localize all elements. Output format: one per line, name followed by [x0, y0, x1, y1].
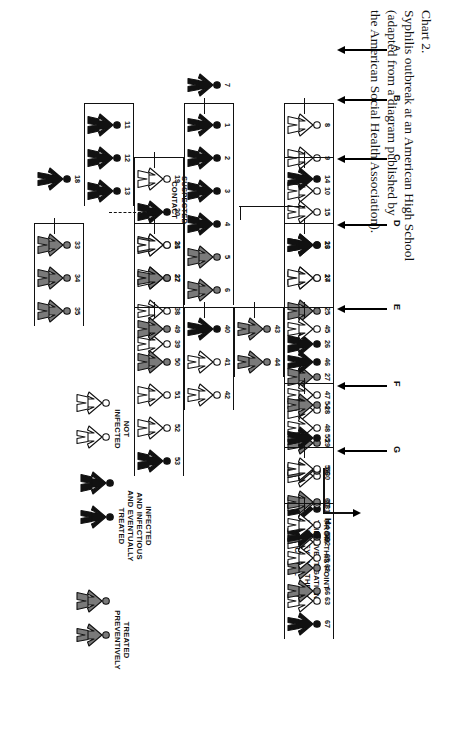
arrow-shaft — [343, 385, 387, 387]
person-icon — [187, 72, 221, 98]
legend-preventive: TREATED PREVENTIVELY — [74, 588, 131, 692]
connector-line — [304, 378, 305, 394]
generation-label-a: A — [392, 45, 402, 52]
cluster-bracket — [34, 223, 84, 326]
legend-infected: INFECTED AND INFECTIOUS AND EVENTUALLY T… — [78, 470, 153, 582]
case-number: 18 — [73, 166, 81, 192]
cluster-bracket — [284, 503, 334, 639]
connector-line — [204, 302, 205, 318]
legend-notinfected-line-1: NOT — [122, 390, 131, 468]
connector-line — [304, 152, 305, 168]
connector-line — [304, 302, 305, 318]
connector-line — [154, 152, 155, 168]
arrow-head — [337, 155, 345, 163]
legend-notinfected-figures — [74, 390, 110, 468]
suspected-contact-link — [109, 212, 165, 213]
legend-preventive-line-1: TREATED — [122, 588, 131, 692]
cluster-bracket — [134, 307, 184, 476]
arrow-shaft — [343, 308, 387, 310]
arrow-head — [337, 96, 345, 104]
connector-line — [154, 218, 155, 234]
legend-figure — [76, 588, 110, 614]
cluster-bracket — [184, 103, 234, 305]
connector-line — [204, 98, 205, 114]
arrow-head — [337, 46, 345, 54]
arrow-shaft — [343, 99, 387, 101]
legend-infected-line-1: INFECTED — [144, 470, 153, 582]
connector-line — [254, 302, 255, 318]
connector-line — [239, 206, 305, 207]
legend-figure — [76, 390, 110, 416]
case-number: 7 — [223, 72, 231, 98]
arrow-shaft — [343, 450, 387, 452]
legend-preventive-line-2: PREVENTIVELY — [113, 588, 122, 692]
arrow-head — [337, 447, 345, 455]
arrow-head — [337, 305, 345, 313]
person-icon — [80, 470, 114, 496]
arrow-shaft — [343, 49, 387, 51]
connector-line — [304, 98, 305, 114]
generation-label-c: C — [392, 154, 402, 161]
arrow-head — [337, 221, 345, 229]
person-icon — [76, 622, 110, 648]
person-icon — [76, 588, 110, 614]
legend-notinfected-title: NOT INFECTED — [113, 390, 131, 468]
arrow-head — [337, 382, 345, 390]
legend-figure — [80, 504, 114, 530]
legend-infected-line-2: AND INFECTIOUS — [135, 470, 144, 582]
connector-line — [54, 218, 55, 234]
cluster-bracket — [184, 307, 234, 410]
person-icon — [80, 504, 114, 530]
connector-line — [304, 218, 305, 234]
connector-line — [304, 498, 305, 514]
generation-label-g: G — [392, 446, 402, 453]
arrow-shaft — [343, 158, 387, 160]
generation-label-f: F — [392, 381, 402, 387]
legend-infected-line-4: TREATED — [117, 470, 126, 582]
caption-line-3: the American Social Health Association). — [367, 10, 384, 310]
chart-canvas: Chart 2. Syphilis outbreak at an America… — [0, 0, 449, 746]
legend-infected-line-3: AND EVENTUALLY — [126, 470, 135, 582]
connector-line — [240, 206, 241, 220]
legend-notinfected: NOT INFECTED — [74, 390, 131, 468]
legend-figure — [80, 470, 114, 496]
legend-figure — [76, 424, 110, 450]
legend-infected-figures — [78, 470, 114, 582]
legend-preventive-title: TREATED PREVENTIVELY — [113, 588, 131, 692]
generation-label-d: D — [392, 220, 402, 227]
caption-line-0: Chart 2. — [418, 10, 435, 310]
arrow-shaft — [343, 224, 387, 226]
generation-label-b: B — [392, 95, 402, 102]
person-icon — [37, 166, 71, 192]
legend-notinfected-line-2: INFECTED — [113, 390, 122, 468]
cluster-bracket — [234, 307, 284, 377]
legend-figure — [76, 622, 110, 648]
person-icon — [76, 424, 110, 450]
legend-infected-title: INFECTED AND INFECTIOUS AND EVENTUALLY T… — [117, 470, 153, 582]
cluster-bracket — [84, 103, 134, 206]
legend-preventive-figures — [74, 588, 110, 692]
caption-line-1: Syphilis outbreak at an American High Sc… — [401, 10, 418, 310]
person-icon — [76, 390, 110, 416]
connector-line — [304, 442, 305, 458]
connector-line — [154, 302, 155, 318]
generation-label-e: E — [392, 304, 402, 310]
case-figure: 7 — [187, 72, 221, 98]
case-figure: 18 — [37, 166, 71, 192]
